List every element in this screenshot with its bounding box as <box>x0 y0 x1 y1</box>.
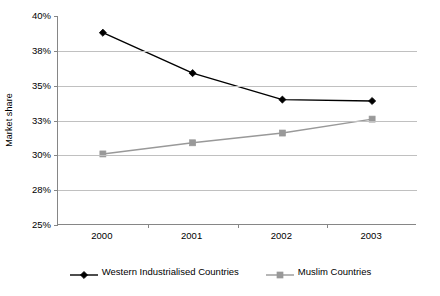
x-axis-tick-labels: 2000200120022003 <box>57 230 416 244</box>
gridline <box>58 86 417 87</box>
y-axis-tick-label: 28% <box>32 185 51 195</box>
x-axis-tick-mark <box>238 224 239 228</box>
gridline <box>58 155 417 156</box>
data-point-marker <box>279 130 285 136</box>
y-axis-tick-mark <box>54 121 58 122</box>
plot-area <box>57 16 416 225</box>
series-2 <box>100 116 375 157</box>
y-axis-tick-label: 40% <box>32 11 51 21</box>
data-point-marker <box>369 97 376 104</box>
legend-label: Muslim Countries <box>298 266 371 277</box>
y-axis-tick-label: 38% <box>32 46 51 56</box>
gridline <box>58 121 417 122</box>
y-axis-tick-mark <box>54 16 58 17</box>
y-axis-tick-mark <box>54 155 58 156</box>
legend-marker-icon <box>69 266 99 276</box>
market-share-line-chart: Market share 40%38%35%33%30%28%25% 20002… <box>0 0 440 296</box>
legend-marker <box>277 272 283 278</box>
x-axis-tick-mark <box>327 224 328 228</box>
data-point-marker <box>99 29 106 36</box>
legend-label: Western Industrialised Countries <box>102 266 239 277</box>
y-axis-tick-mark <box>54 225 58 226</box>
data-point-marker <box>279 96 286 103</box>
legend-marker <box>80 271 87 278</box>
chart-legend: Western Industrialised CountriesMuslim C… <box>0 262 440 280</box>
x-axis-tick-label: 2001 <box>181 230 202 242</box>
y-axis-title: Market share <box>0 0 18 240</box>
legend-entry[interactable]: Western Industrialised Countries <box>69 266 239 277</box>
x-axis-tick-mark <box>148 224 149 228</box>
y-axis-title-text: Market share <box>4 93 14 147</box>
series-line <box>103 119 372 154</box>
legend-entry[interactable]: Muslim Countries <box>265 266 371 277</box>
y-axis-tick-labels: 40%38%35%33%30%28%25% <box>18 0 54 296</box>
data-point-marker <box>189 70 196 77</box>
y-axis-tick-mark <box>54 190 58 191</box>
y-axis-tick-label: 35% <box>32 81 51 91</box>
y-axis-tick-mark <box>54 86 58 87</box>
series-1 <box>99 29 375 104</box>
x-axis-tick-label: 2003 <box>361 230 382 242</box>
gridline <box>58 190 417 191</box>
x-axis-tick-label: 2000 <box>91 230 112 242</box>
y-axis-tick-mark <box>54 51 58 52</box>
data-point-marker <box>190 140 196 146</box>
legend-marker-icon <box>265 266 295 276</box>
series-line <box>103 33 372 101</box>
y-axis-tick-label: 33% <box>32 116 51 126</box>
y-axis-tick-label: 30% <box>32 150 51 160</box>
x-axis-tick-label: 2002 <box>271 230 292 242</box>
gridline <box>58 51 417 52</box>
y-axis-tick-label: 25% <box>32 220 51 230</box>
